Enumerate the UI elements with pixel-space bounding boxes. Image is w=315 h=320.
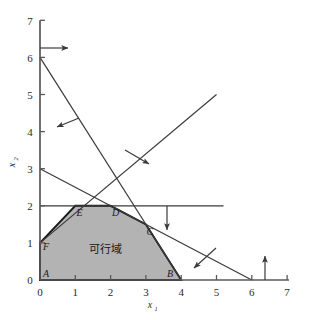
x-axis-title-sub: 1 <box>155 305 158 312</box>
x-tick-3: 3 <box>143 286 149 298</box>
x-tick-6: 6 <box>249 286 255 298</box>
y-tick-2: 2 <box>27 200 33 212</box>
vertex-label-A: A <box>42 268 50 279</box>
vertex-label-E: E <box>76 207 83 218</box>
plot-svg: 7 6 5 4 3 2 1 0 0 1 2 3 4 5 6 7 x 2 x 1 … <box>0 0 315 320</box>
region-label-text: 可行域 <box>89 243 122 256</box>
y-tick-0: 0 <box>27 274 33 286</box>
y-tick-1: 1 <box>27 237 33 249</box>
y-tick-5: 5 <box>27 89 33 101</box>
y-tick-4: 4 <box>27 126 33 138</box>
vertex-label-D: D <box>111 207 120 218</box>
vertex-label-F: F <box>42 241 50 252</box>
x-tick-4: 4 <box>178 286 184 298</box>
x-tick-1: 1 <box>73 286 79 298</box>
x-tick-2: 2 <box>108 286 114 298</box>
y-tick-7: 7 <box>27 15 33 27</box>
feasible-region-figure: 7 6 5 4 3 2 1 0 0 1 2 3 4 5 6 7 x 2 x 1 … <box>0 0 315 320</box>
x-tick-7: 7 <box>284 286 290 298</box>
y-tick-6: 6 <box>27 52 33 64</box>
vertex-label-C: C <box>147 226 154 237</box>
y-axis-title-text: x <box>6 162 17 168</box>
x-axis-title-text: x <box>147 299 153 310</box>
x-tick-5: 5 <box>214 286 220 298</box>
vertex-label-B: B <box>167 268 173 279</box>
x-tick-0: 0 <box>37 286 43 298</box>
y-tick-3: 3 <box>27 163 33 175</box>
